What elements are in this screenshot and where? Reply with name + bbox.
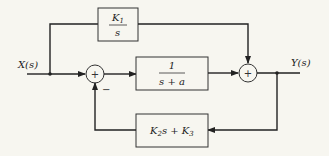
- summing-junction-2: +: [239, 64, 257, 82]
- plant-numerator: 1: [169, 60, 175, 71]
- output-signal: Y(s): [257, 57, 311, 75]
- sum2-plus: +: [244, 68, 252, 79]
- output-label: Y(s): [291, 57, 311, 68]
- input-label: X(s): [17, 59, 38, 70]
- k1-denominator: s: [115, 27, 120, 38]
- summing-junction-1: + −: [86, 65, 110, 95]
- plant-denominator: s + a: [159, 76, 185, 87]
- sum1-minus-sign: −: [102, 84, 110, 95]
- sum1-plus: +: [91, 69, 99, 80]
- input-signal: X(s): [17, 59, 52, 76]
- block-diagram: X(s) K1 s + − 1 s + a + Y(s): [0, 0, 329, 156]
- plant-block: 1 s + a: [136, 57, 208, 90]
